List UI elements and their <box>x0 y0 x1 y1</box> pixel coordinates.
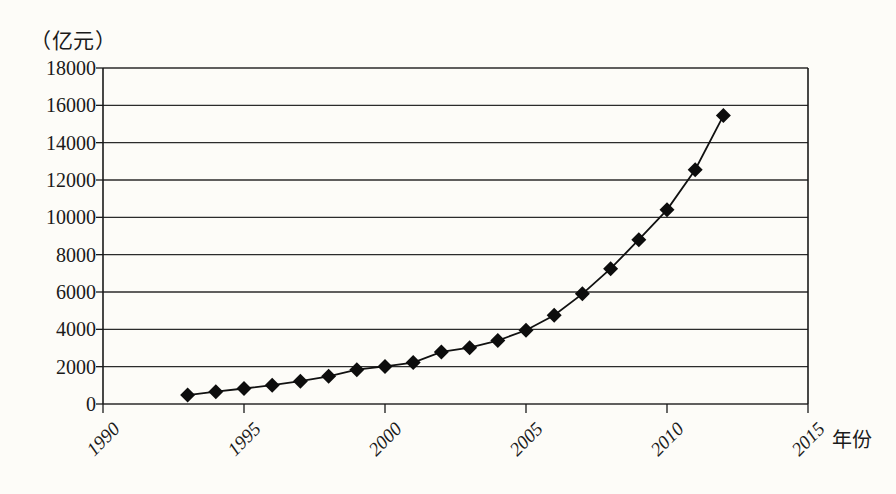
data-point-marker <box>716 108 731 123</box>
data-point-marker <box>519 323 534 338</box>
data-point-marker <box>349 362 364 377</box>
data-line <box>188 116 724 395</box>
axis-frame <box>103 68 808 404</box>
data-point-marker <box>490 333 505 348</box>
data-point-marker <box>547 308 562 323</box>
data-point-marker <box>293 374 308 389</box>
data-point-marker <box>265 378 280 393</box>
chart-figure: （亿元） 02000400060008000100001200014000160… <box>0 0 896 494</box>
data-point-marker <box>237 381 252 396</box>
data-point-marker <box>406 355 421 370</box>
x-axis-title: 年份 <box>832 424 872 453</box>
data-point-marker <box>688 162 703 177</box>
gridlines <box>96 68 808 404</box>
data-point-marker <box>208 384 223 399</box>
x-axis-ticks <box>103 404 808 413</box>
data-point-marker <box>378 359 393 374</box>
data-point-marker <box>180 388 195 403</box>
chart-plot-area <box>0 0 896 494</box>
data-point-marker <box>434 344 449 359</box>
data-point-marker <box>462 340 477 355</box>
data-point-marker <box>321 369 336 384</box>
data-point-markers <box>180 108 731 402</box>
